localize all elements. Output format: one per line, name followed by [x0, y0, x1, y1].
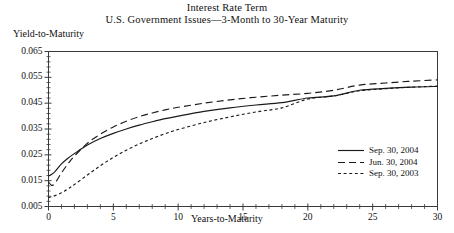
y-tick-label: 0.035 [9, 123, 43, 133]
x-tick-label: 25 [361, 212, 385, 222]
x-tick-label: 0 [37, 212, 61, 222]
x-tick-label: 10 [166, 212, 190, 222]
x-tick-label: 15 [231, 212, 255, 222]
chart-legend: Sep. 30, 2004Jun. 30, 2004Sep. 30, 2003 [338, 145, 419, 180]
series-line-3 [49, 86, 438, 197]
legend-swatch-dotted [338, 169, 364, 178]
legend-label: Sep. 30, 2004 [369, 145, 419, 157]
y-tick-label: 0.005 [9, 201, 43, 211]
y-tick-label: 0.055 [9, 71, 43, 81]
y-tick-label: 0.025 [9, 149, 43, 159]
legend-swatch-dashed [338, 158, 364, 167]
y-tick-label: 0.045 [9, 97, 43, 107]
x-tick-label: 20 [296, 212, 320, 222]
axis-layer [45, 52, 438, 211]
plot-area [0, 0, 454, 233]
legend-item: Sep. 30, 2003 [338, 168, 419, 180]
x-tick-label: 5 [101, 212, 125, 222]
plot-frame [49, 52, 438, 207]
legend-swatch-solid [338, 146, 364, 155]
legend-label: Jun. 30, 2004 [369, 157, 418, 169]
y-tick-label: 0.065 [9, 46, 43, 56]
series-layer [49, 80, 438, 198]
x-tick-label: 30 [426, 212, 450, 222]
legend-item: Sep. 30, 2004 [338, 145, 419, 157]
legend-label: Sep. 30, 2003 [369, 168, 419, 180]
y-tick-label: 0.015 [9, 175, 43, 185]
chart-figure: Interest Rate Term U.S. Government Issue… [0, 0, 454, 233]
legend-item: Jun. 30, 2004 [338, 157, 419, 169]
